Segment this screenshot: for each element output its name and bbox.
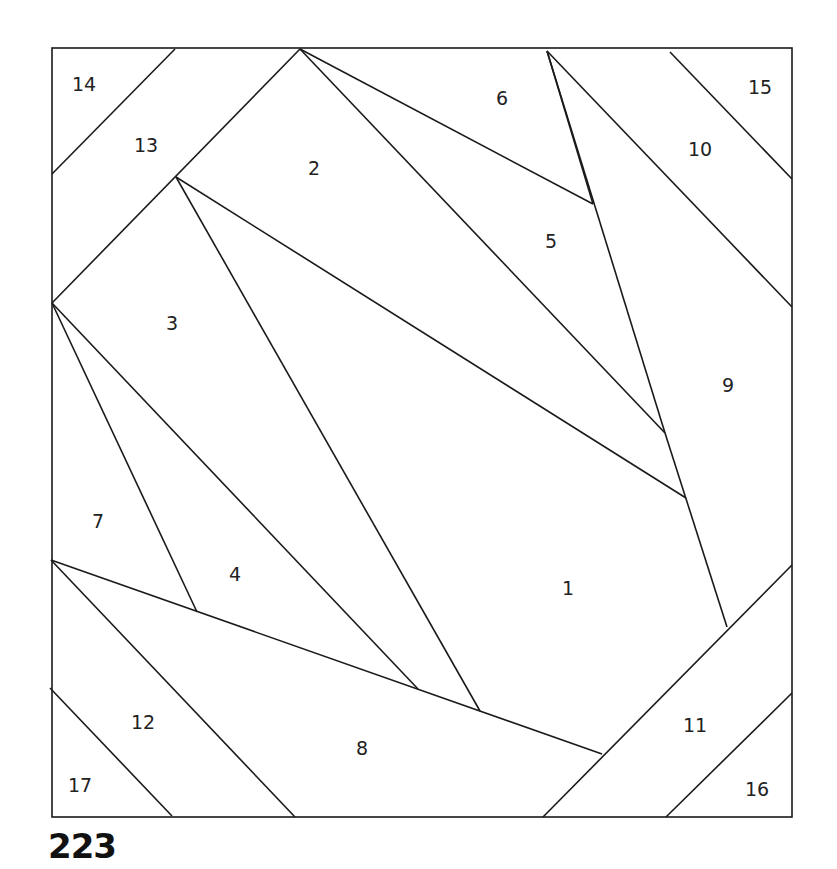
seam-line: [52, 303, 197, 612]
piece-label-7: 7: [92, 510, 104, 532]
piece-label-16: 16: [745, 778, 769, 800]
piece-label-15: 15: [748, 76, 772, 98]
piece-label-8: 8: [356, 737, 368, 759]
seam-line: [52, 303, 418, 689]
piece-label-12: 12: [131, 711, 155, 733]
piece-label-1: 1: [562, 577, 574, 599]
piece-label-17: 17: [68, 774, 92, 796]
piece-label-6: 6: [496, 87, 508, 109]
piece-label-3: 3: [166, 312, 178, 334]
seam-line: [665, 433, 727, 627]
piece-label-2: 2: [308, 157, 320, 179]
piece-label-14: 14: [72, 73, 96, 95]
piece-label-11: 11: [683, 714, 707, 736]
page-number: 223: [48, 826, 116, 866]
seam-line: [50, 688, 172, 816]
seam-line: [176, 177, 480, 711]
seam-line: [300, 49, 665, 433]
seam-lines: [50, 49, 792, 817]
piece-label-5: 5: [545, 230, 557, 252]
quilt-block-diagram: 1234567891011121314151617: [0, 0, 837, 869]
seam-line: [176, 177, 686, 498]
block-border: [52, 48, 792, 817]
piece-label-10: 10: [688, 138, 712, 160]
piece-label-4: 4: [229, 563, 241, 585]
piece-label-13: 13: [134, 134, 158, 156]
seam-line: [666, 693, 792, 817]
piece-label-9: 9: [722, 374, 734, 396]
seam-line: [300, 49, 593, 204]
